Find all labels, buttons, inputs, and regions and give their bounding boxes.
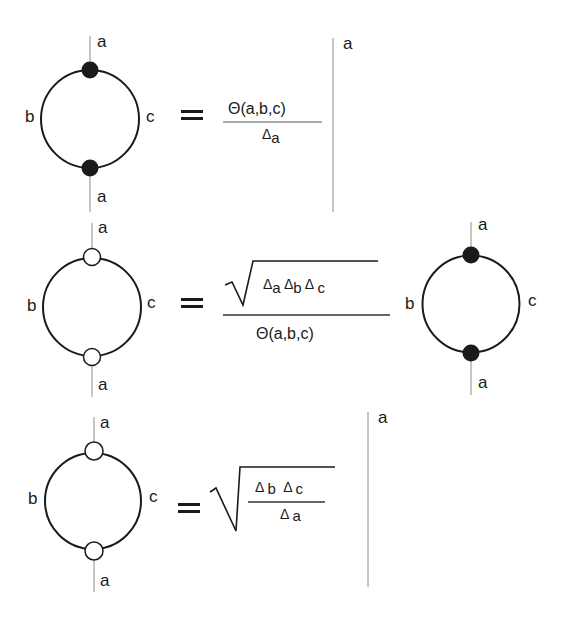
eq3-label-top: a bbox=[100, 414, 109, 431]
eq2-denominator: Θ(a,b,c) bbox=[256, 326, 314, 342]
eq3-sqrt-radical-icon bbox=[210, 467, 335, 531]
eq1-label-left: b bbox=[25, 108, 34, 125]
eq3-sqrt-denominator: Δ a bbox=[280, 506, 301, 522]
eq2-rhs-bottom-filled-node-icon bbox=[463, 345, 480, 362]
eq1-denominator: Δa bbox=[262, 126, 280, 142]
eq2-label-top: a bbox=[98, 219, 107, 236]
eq3-loop bbox=[45, 453, 141, 549]
eq2-rhs-label-bottom: a bbox=[478, 374, 487, 391]
eq2-equals-sign bbox=[181, 298, 203, 308]
eq2-rhs-label-top: a bbox=[478, 216, 487, 233]
eq3-evaluation-label: a bbox=[378, 409, 387, 426]
eq1-label-top: a bbox=[97, 33, 106, 50]
eq1-loop bbox=[41, 70, 139, 168]
diagram-canvas bbox=[0, 0, 564, 630]
eq2-rhs-label-left: b bbox=[405, 295, 414, 312]
eq1-bottom-filled-node-icon bbox=[82, 160, 99, 177]
eq2-sqrt-numerator: Δa Δb Δ c bbox=[263, 276, 325, 292]
eq2-loop-diagram bbox=[43, 223, 141, 397]
eq3-label-left: b bbox=[28, 490, 37, 507]
eq2-label-bottom: a bbox=[98, 376, 107, 393]
eq1-label-bottom: a bbox=[97, 188, 106, 205]
eq3-label-right: c bbox=[149, 488, 158, 505]
eq1-loop-diagram bbox=[41, 36, 139, 212]
eq1-equals-sign bbox=[181, 110, 203, 120]
eq2-rhs-loop-diagram bbox=[423, 222, 520, 395]
eq2-top-open-node-icon bbox=[84, 249, 101, 266]
eq2-rhs-label-right: c bbox=[528, 292, 537, 309]
eq2-bottom-open-node-icon bbox=[84, 349, 101, 366]
eq3-sqrt-numerator: Δ b Δ c bbox=[255, 479, 303, 495]
eq3-equals-sign bbox=[178, 503, 200, 513]
eq1-evaluation-label: a bbox=[343, 35, 352, 52]
eq1-numerator: Θ(a,b,c) bbox=[228, 101, 286, 117]
eq2-label-left: b bbox=[27, 297, 36, 314]
eq2-rhs-loop bbox=[423, 256, 520, 353]
eq3-loop-diagram bbox=[45, 417, 141, 592]
eq1-top-filled-node-icon bbox=[82, 62, 99, 79]
eq2-rhs-top-filled-node-icon bbox=[463, 247, 480, 264]
eq1-label-right: c bbox=[146, 108, 155, 125]
eq3-top-open-node-icon bbox=[85, 442, 103, 460]
eq2-label-right: c bbox=[147, 294, 156, 311]
eq2-loop bbox=[43, 258, 141, 356]
eq3-label-bottom: a bbox=[100, 572, 109, 589]
eq3-bottom-open-node-icon bbox=[85, 542, 103, 560]
